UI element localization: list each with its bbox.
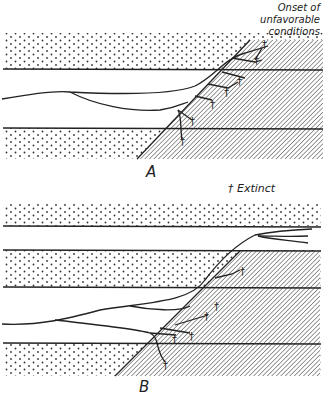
dagger-icon: † (228, 182, 234, 195)
onset-line-3: conditions (260, 26, 320, 38)
svg-text:†: † (210, 99, 215, 110)
svg-text:†: † (204, 311, 209, 322)
svg-text:†: † (237, 76, 242, 87)
onset-line-2: unfavorable (260, 14, 320, 26)
onset-label: Onset of unfavorable conditions (260, 2, 320, 38)
svg-text:†: † (240, 266, 245, 277)
legend-text: Extinct (237, 182, 275, 195)
svg-text:†: † (163, 360, 168, 371)
svg-text:†: † (172, 334, 177, 345)
svg-text:†: † (224, 87, 229, 98)
onset-line-1: Onset of (260, 2, 320, 14)
panel-a: ††† †††† (2, 33, 323, 159)
svg-text:†: † (180, 136, 185, 147)
sandstone-layer-top (3, 203, 321, 226)
svg-text:†: † (262, 39, 267, 50)
svg-text:†: † (190, 116, 195, 127)
legend-extinct: † Extinct (228, 182, 275, 195)
diagram-canvas: ††† †††† ††† ††† (0, 0, 328, 398)
svg-text:†: † (189, 331, 194, 342)
panel-b: ††† ††† (2, 203, 321, 376)
svg-text:†: † (254, 55, 259, 66)
panel-label-a: A (146, 163, 156, 181)
panel-label-b: B (139, 378, 149, 396)
bed-boundary (3, 226, 321, 227)
svg-text:†: † (214, 301, 219, 312)
